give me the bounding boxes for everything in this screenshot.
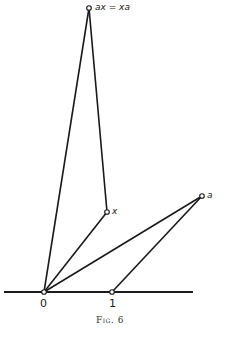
- label-x: x: [112, 207, 117, 216]
- point-ax: [87, 6, 92, 11]
- figure-caption: Fig. 6: [96, 316, 124, 325]
- vector-diagram: [0, 0, 226, 339]
- segment-ax-to-x: [89, 8, 107, 212]
- segment-origin-to-ax: [44, 8, 89, 292]
- segment-one-to-a: [112, 196, 202, 292]
- segment-origin-to-x: [44, 212, 107, 292]
- point-x: [105, 210, 110, 215]
- label-a: a: [207, 191, 213, 200]
- point-one: [110, 290, 115, 295]
- figure-6: ax = xa x a 0 1 Fig. 6: [0, 0, 226, 339]
- point-a: [200, 194, 205, 199]
- tick-label-one: 1: [109, 298, 116, 309]
- tick-label-zero: 0: [40, 298, 47, 309]
- label-ax-equals-xa: ax = xa: [95, 3, 130, 12]
- segments-group: [44, 8, 202, 292]
- segment-origin-to-a: [44, 196, 202, 292]
- point-origin: [42, 290, 47, 295]
